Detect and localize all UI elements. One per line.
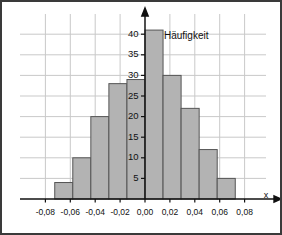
y-tick-label: 30 [128, 69, 139, 80]
y-tick-label: 25 [128, 90, 139, 101]
x-tick-label: -0,02 [110, 207, 130, 217]
x-tick-label: 0,02 [162, 207, 179, 217]
y-tick-label: 15 [128, 131, 139, 142]
x-tick-label: 0,08 [236, 207, 253, 217]
y-tick-label: 35 [128, 48, 139, 59]
histogram-bar [163, 75, 181, 199]
histogram-bar [217, 178, 235, 199]
histogram-bar [181, 108, 199, 199]
x-tick-label: 0,06 [211, 207, 228, 217]
xtick-labels: -0,08-0,06-0,04-0,020,000,020,040,060,08 [36, 207, 253, 217]
histogram-bar [109, 84, 127, 199]
x-tick-label: -0,06 [61, 207, 81, 217]
histogram-chart: 510152025303540 -0,08-0,06-0,04-0,020,00… [2, 2, 282, 235]
y-tick-label: 20 [128, 110, 139, 121]
x-tick-label: -0,08 [36, 207, 56, 217]
series-label: Häufigkeit [164, 30, 209, 41]
x-tick-label: -0,04 [86, 207, 106, 217]
x-tick-label: 0,00 [137, 207, 154, 217]
x-axis-arrow [274, 196, 281, 202]
y-tick-label: 10 [128, 151, 139, 162]
x-tick-label: 0,04 [187, 207, 204, 217]
chart-frame: 510152025303540 -0,08-0,06-0,04-0,020,00… [0, 0, 282, 235]
histogram-bar [145, 30, 163, 199]
histogram-bar [91, 117, 109, 199]
x-axis-label: x [264, 190, 269, 200]
histogram-bar [73, 158, 91, 199]
y-tick-label: 5 [133, 172, 138, 183]
histogram-bar [55, 183, 73, 199]
histogram-bar [199, 150, 217, 199]
y-tick-label: 40 [128, 28, 139, 39]
y-axis-arrow [142, 8, 148, 16]
